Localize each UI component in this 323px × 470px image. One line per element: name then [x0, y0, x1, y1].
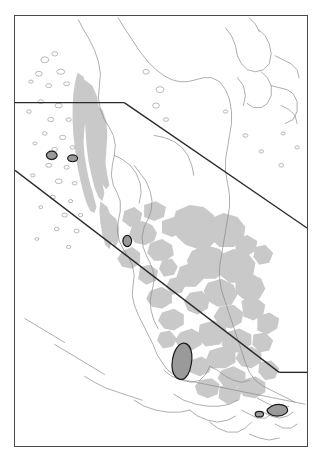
map-frame: [14, 15, 308, 447]
map-figure: upland / shaded relief study area bounda…: [0, 0, 323, 470]
islands-layer: [27, 52, 300, 249]
caption-strip: [0, 0, 323, 13]
map-canvas: [15, 16, 307, 446]
